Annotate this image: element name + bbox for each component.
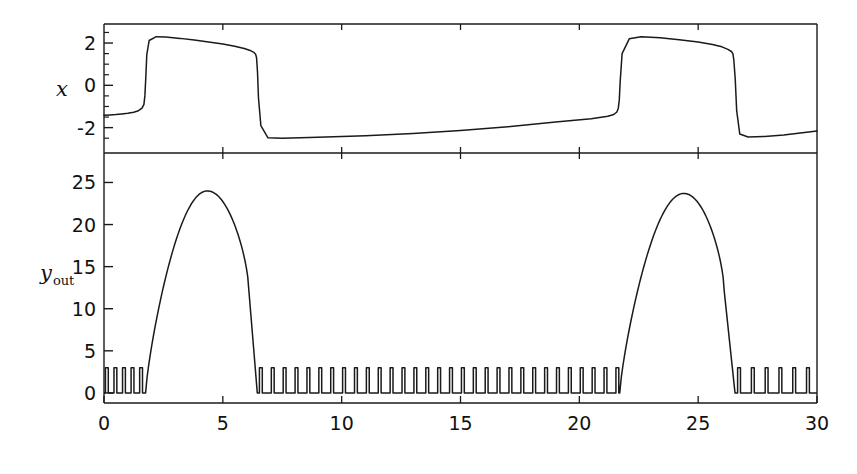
bottom-panel-axis-label-main: y (39, 261, 53, 285)
x-tick-label: 20 (567, 412, 591, 434)
bottom-y-tick-label: 25 (72, 171, 96, 193)
x-tick-label: 5 (217, 412, 229, 434)
x-tick-label: 10 (330, 412, 354, 434)
bottom-y-tick-label: 5 (84, 340, 96, 362)
top-y-tick-label: 0 (84, 74, 96, 96)
x-tick-label: 15 (448, 412, 472, 434)
two-panel-timeseries-figure: 20-2 x 2520151050 051015202530 yout (0, 0, 857, 474)
bottom-y-tick-label: 10 (72, 298, 96, 320)
bottom-y-tick-label: 20 (72, 214, 96, 236)
bottom-y-tick-label: 15 (72, 256, 96, 278)
bottom-panel-axis-label-subscript: out (53, 273, 75, 288)
x-tick-label: 0 (98, 412, 110, 434)
x-tick-label: 30 (805, 412, 829, 434)
top-y-tick-label: 2 (84, 32, 96, 54)
bottom-y-tick-label: 0 (84, 382, 96, 404)
top-panel-axis-label: x (56, 77, 68, 101)
x-tick-label: 25 (686, 412, 710, 434)
figure-container: 20-2 x 2520151050 051015202530 yout (0, 0, 857, 474)
top-y-tick-label: -2 (77, 117, 96, 139)
